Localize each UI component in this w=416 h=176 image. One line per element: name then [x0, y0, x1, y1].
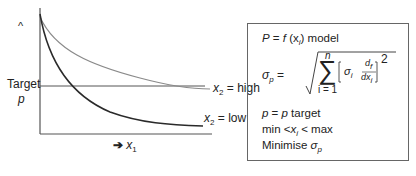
- curve-x2-low: [40, 14, 203, 126]
- sum-symbol: ∑: [318, 57, 337, 83]
- constraint-minimise: Minimise σp: [262, 139, 322, 154]
- target-symbol: p: [18, 92, 25, 106]
- deriv-denominator: dxi: [361, 72, 372, 85]
- deriv-numerator: df: [365, 58, 372, 71]
- arrow-right-icon: ➔: [113, 138, 123, 152]
- constraint-range: min <xi < max: [262, 123, 333, 138]
- sum-lower: i = 1: [318, 84, 337, 95]
- x-axis-label: ➔ x1: [113, 138, 137, 154]
- model-box: P = f (xi) model σp = n ∑ i = 1 σi df dx…: [247, 23, 409, 161]
- curve-label-low: x2 = low: [204, 111, 246, 127]
- target-label: Target: [7, 77, 40, 91]
- exponent: 2: [381, 52, 388, 66]
- inner-sigma: σi: [344, 65, 352, 80]
- y-axis-marker: ^: [18, 20, 23, 32]
- constraint-target: p = p target: [262, 107, 321, 119]
